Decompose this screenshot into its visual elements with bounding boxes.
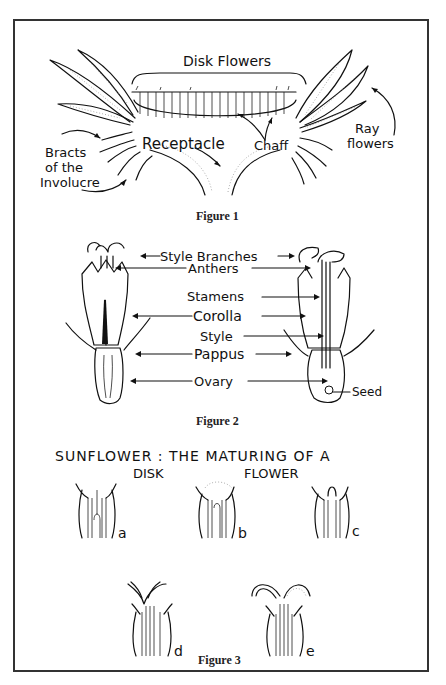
- figure2-illustration: Style Branches Anthers Stamens Corolla S…: [66, 243, 382, 404]
- label-corolla: Corolla: [193, 308, 242, 324]
- label-disk-flowers: Disk Flowers: [183, 53, 271, 69]
- flower-section: [284, 248, 374, 403]
- label-ray-line2: flowers: [347, 136, 394, 151]
- label-ray-line1: Ray: [355, 121, 380, 136]
- stage-a: a: [76, 484, 127, 541]
- diagram-canvas: Disk Flowers Receptacle Chaff Ray flower…: [0, 0, 446, 685]
- stage-e-label: e: [306, 643, 315, 659]
- figure1-illustration: Disk Flowers Receptacle Chaff Ray flower…: [40, 50, 395, 195]
- label-anthers: Anthers: [188, 261, 239, 276]
- label-stamens: Stamens: [187, 289, 244, 304]
- label-pappus: Pappus: [194, 346, 244, 362]
- label-chaff: Chaff: [254, 138, 289, 153]
- label-bracts-line2: of the: [45, 160, 83, 175]
- stage-c-label: c: [352, 523, 360, 539]
- stage-b: b: [196, 482, 247, 541]
- label-seed: Seed: [352, 385, 382, 399]
- stage-c: c: [312, 487, 360, 539]
- figure2-caption: Figure 2: [196, 414, 239, 428]
- disk-florets: [136, 86, 289, 118]
- label-style: Style: [200, 329, 233, 344]
- figure3-title-line2-left: DISK: [133, 466, 164, 481]
- label-bracts-line3: Involucre: [40, 175, 100, 190]
- stage-a-label: a: [118, 525, 127, 541]
- label-ovary: Ovary: [194, 374, 233, 389]
- stage-e: e: [252, 585, 315, 659]
- stage-d: d: [128, 582, 183, 659]
- label-receptacle: Receptacle: [142, 135, 225, 153]
- figure3-title-line2-right: FLOWER: [244, 466, 299, 481]
- figure3-caption: Figure 3: [198, 653, 241, 667]
- figure1-caption: Figure 1: [196, 209, 239, 223]
- stage-b-label: b: [238, 525, 247, 541]
- figure3-title-line1: SUNFLOWER : THE MATURING OF A: [55, 448, 330, 464]
- stage-d-label: d: [174, 643, 183, 659]
- label-bracts-line1: Bracts: [45, 145, 86, 160]
- flower-exterior: [66, 243, 150, 404]
